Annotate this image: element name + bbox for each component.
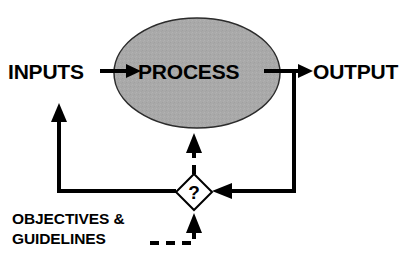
process-label: PROCESS: [138, 60, 239, 83]
decision-to-inputs-line: [59, 118, 176, 191]
diagram-canvas: INPUTS PROCESS OUTPUT ? OBJECTIVES & GUI…: [0, 0, 420, 264]
decision-to-process-arrowhead: [186, 133, 202, 153]
objectives-label-line2: GUIDELINES: [12, 230, 106, 247]
process-to-output-arrowhead: [298, 64, 313, 78]
decision-to-inputs-arrowhead: [51, 103, 67, 122]
output-label: OUTPUT: [313, 60, 399, 83]
objectives-to-decision-dashed-line: [150, 232, 194, 243]
decision-question-mark-label: ?: [188, 182, 200, 203]
process-feedback-diagram: INPUTS PROCESS OUTPUT ? OBJECTIVES & GUI…: [0, 0, 420, 264]
objectives-label-line1: OBJECTIVES &: [12, 210, 125, 227]
objectives-to-decision-arrowhead: [186, 213, 202, 233]
inputs-label: INPUTS: [8, 60, 84, 83]
output-to-decision-arrowhead: [212, 183, 232, 199]
